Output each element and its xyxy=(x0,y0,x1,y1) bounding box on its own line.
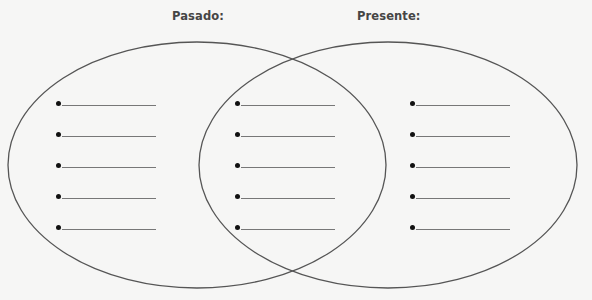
blank-line[interactable] xyxy=(62,136,156,137)
circle-pasado xyxy=(8,42,386,288)
bullet-icon xyxy=(56,101,61,106)
venn-diagram: Pasado: Presente: xyxy=(0,0,592,300)
circle-presente xyxy=(199,42,577,288)
bullet-icon xyxy=(56,194,61,199)
bullet-icon xyxy=(56,163,61,168)
venn-circles xyxy=(0,0,592,300)
blank-line[interactable] xyxy=(416,198,510,199)
bullet-icon xyxy=(410,132,415,137)
blank-line[interactable] xyxy=(416,229,510,230)
blank-line[interactable] xyxy=(241,229,335,230)
bullet-icon xyxy=(235,225,240,230)
bullet-icon xyxy=(235,194,240,199)
blank-line[interactable] xyxy=(62,167,156,168)
bullet-icon xyxy=(56,225,61,230)
bullet-icon xyxy=(410,163,415,168)
blank-line[interactable] xyxy=(241,105,335,106)
bullet-icon xyxy=(235,101,240,106)
blank-line[interactable] xyxy=(416,105,510,106)
bullet-icon xyxy=(410,194,415,199)
bullet-icon xyxy=(56,132,61,137)
blank-line[interactable] xyxy=(62,198,156,199)
blank-line[interactable] xyxy=(62,229,156,230)
bullet-icon xyxy=(410,225,415,230)
blank-line[interactable] xyxy=(416,136,510,137)
blank-line[interactable] xyxy=(416,167,510,168)
blank-line[interactable] xyxy=(241,136,335,137)
bullet-icon xyxy=(235,132,240,137)
blank-line[interactable] xyxy=(62,105,156,106)
blank-line[interactable] xyxy=(241,198,335,199)
bullet-icon xyxy=(410,101,415,106)
bullet-icon xyxy=(235,163,240,168)
blank-line[interactable] xyxy=(241,167,335,168)
